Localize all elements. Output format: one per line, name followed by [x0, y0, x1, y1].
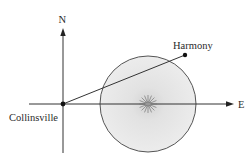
north-axis — [60, 28, 65, 153]
harmony-label: Harmony — [173, 40, 213, 51]
north-arrow-icon — [60, 28, 65, 36]
coordinate-diagram: N E Harmony Collinsville — [0, 0, 252, 167]
east-label: E — [238, 99, 244, 110]
north-label: N — [59, 14, 67, 25]
storm-burst-icon — [139, 95, 157, 113]
collinsville-label: Collinsville — [9, 112, 58, 123]
east-arrow-icon — [226, 101, 234, 106]
harmony-point — [183, 53, 187, 57]
collinsville-point — [61, 102, 66, 107]
